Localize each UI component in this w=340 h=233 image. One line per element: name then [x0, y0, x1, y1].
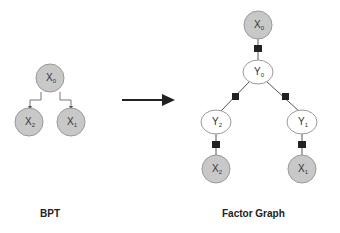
- bpt-edge-x0-x2: [30, 92, 41, 108]
- diagram-canvas: X0 X2 X1 X0 Y0: [0, 0, 340, 233]
- fg-node-x1: X1: [288, 155, 316, 183]
- bpt-node-x0: X0: [36, 64, 64, 92]
- bpt-edge-x0-x1: [60, 92, 71, 108]
- factor-y0-y2: [232, 93, 239, 100]
- bpt-node-x2: X2: [15, 108, 43, 136]
- bpt-diagram: X0 X2 X1: [15, 64, 85, 136]
- factor-y0-y1: [282, 93, 289, 100]
- factor-y2-x2: [212, 141, 220, 148]
- factor-graph-edges: [216, 38, 302, 158]
- factor-y1-x1: [298, 141, 306, 148]
- fg-node-y2: Y2: [201, 110, 231, 134]
- bpt-node-x1: X1: [57, 108, 85, 136]
- fg-node-y0: Y0: [243, 60, 273, 84]
- factor-graph-caption: Factor Graph: [222, 208, 285, 219]
- bpt-caption: BPT: [40, 208, 60, 219]
- fg-node-x0: X0: [244, 11, 272, 39]
- fg-node-y1: Y1: [287, 110, 317, 134]
- fg-node-x2: X2: [202, 155, 230, 183]
- transform-arrow-icon: [122, 94, 175, 106]
- factor-x0-y0: [254, 45, 262, 52]
